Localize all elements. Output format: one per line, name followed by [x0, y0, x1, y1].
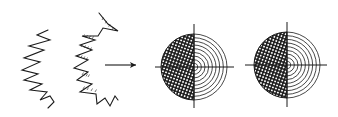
illustration-figure — [0, 0, 338, 117]
zigzag-line — [22, 30, 54, 108]
hatch-mark — [88, 75, 90, 78]
zigzag-line — [74, 13, 118, 106]
zigzag-shape-right-hatched — [74, 13, 118, 106]
hatch-mark — [92, 37, 94, 40]
hatch-mark — [91, 89, 93, 92]
hatch-mark — [95, 90, 97, 93]
hatch-mark — [82, 73, 84, 76]
target-circle-right — [245, 22, 327, 107]
target-circle-left — [155, 24, 234, 108]
hatch-mark — [87, 88, 89, 91]
hatch-mark — [86, 74, 88, 77]
zigzag-shape-left — [22, 30, 54, 108]
diagram-canvas — [0, 0, 338, 117]
arrow-right-icon — [105, 62, 136, 68]
